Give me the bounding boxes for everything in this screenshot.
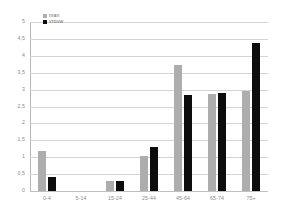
- y-axis-tick-label: 2: [22, 121, 25, 126]
- bar-group: [234, 22, 268, 191]
- y-axis-tick-label: 3,5: [17, 70, 25, 75]
- bar-vrouw-65-74: [218, 93, 227, 191]
- bar-group: [200, 22, 234, 191]
- x-axis-tick-label: 45-64: [176, 196, 190, 201]
- bar-series-layer: [30, 22, 268, 191]
- bar-man-75+: [242, 91, 251, 191]
- legend-swatch-icon: [43, 14, 47, 18]
- x-axis-tick-label: 15-24: [108, 196, 122, 201]
- bar-group: [98, 22, 132, 191]
- y-axis-tick-labels: 54,543,532,521,510,50: [0, 22, 28, 191]
- bar-vrouw-25-44: [150, 147, 159, 191]
- bar-group: [64, 22, 98, 191]
- x-axis-tick-label: 25-44: [142, 196, 156, 201]
- y-axis-tick-label: 0,5: [17, 171, 25, 176]
- bar-group: [132, 22, 166, 191]
- x-axis-tick-label: 65-74: [210, 196, 224, 201]
- bar-vrouw-75+: [252, 43, 261, 191]
- y-axis-tick-label: 3: [22, 87, 25, 92]
- legend-swatch-icon: [43, 20, 47, 24]
- y-axis-tick-label: 0: [22, 188, 25, 193]
- y-axis-tick-label: 1,5: [17, 138, 25, 143]
- gridline: [30, 191, 268, 192]
- bar-vrouw-0-4: [48, 177, 57, 191]
- x-axis-tick-label: 0-4: [43, 196, 51, 201]
- y-axis-tick-label: 2,5: [17, 104, 25, 109]
- y-axis-tick-label: 5: [22, 19, 25, 24]
- x-axis-tick-labels: 0-45-1415-2425-4445-6465-7475+: [30, 196, 268, 212]
- x-axis-tick-label: 5-14: [76, 196, 87, 201]
- legend-label: vrouw: [49, 19, 63, 24]
- x-axis-tick-label: 75+: [246, 196, 255, 201]
- bar-chart: 54,543,532,521,510,50 0-45-1415-2425-444…: [0, 0, 300, 219]
- bar-man-15-24: [106, 181, 115, 191]
- plot-area: [30, 22, 268, 191]
- bar-man-45-64: [174, 65, 183, 191]
- bar-man-25-44: [140, 156, 149, 191]
- y-axis-tick-label: 4,5: [17, 36, 25, 41]
- legend-entry-vrouw: vrouw: [43, 19, 63, 24]
- chart-legend: manvrouw: [43, 13, 63, 24]
- bar-vrouw-45-64: [184, 95, 193, 191]
- y-axis-tick-label: 4: [22, 53, 25, 58]
- bar-man-0-4: [38, 151, 47, 191]
- bar-group: [166, 22, 200, 191]
- y-axis-tick-label: 1: [22, 155, 25, 160]
- bar-group: [30, 22, 64, 191]
- bar-man-65-74: [208, 94, 217, 191]
- bar-vrouw-15-24: [116, 181, 125, 191]
